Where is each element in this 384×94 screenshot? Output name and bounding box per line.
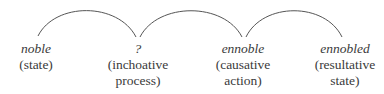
node-gloss: process) xyxy=(108,73,169,89)
node-gloss: action) xyxy=(216,73,271,89)
node-word: ennoble xyxy=(216,41,271,57)
node-word: ? xyxy=(108,41,169,57)
node-ennobled: ennobled (resultative state) xyxy=(315,41,376,89)
node-gloss: state) xyxy=(315,73,376,89)
arc-noble-to-unknown xyxy=(38,11,136,37)
node-gloss: (inchoative xyxy=(108,57,169,73)
arc-ennoble-to-ennobled xyxy=(246,11,342,37)
node-gloss: (resultative xyxy=(315,57,376,73)
node-word: ennobled xyxy=(315,41,376,57)
node-ennoble: ennoble (causative action) xyxy=(216,41,271,89)
node-unknown: ? (inchoative process) xyxy=(108,41,169,89)
arc-unknown-to-ennoble xyxy=(140,11,242,37)
node-gloss: (state) xyxy=(19,57,53,73)
node-gloss: (causative xyxy=(216,57,271,73)
node-word: noble xyxy=(19,41,53,57)
node-noble: noble (state) xyxy=(19,41,53,73)
